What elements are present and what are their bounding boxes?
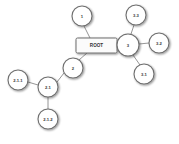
nodes-layer: 1233.13.23.32.12.1.12.1.2 <box>8 5 169 129</box>
edge-root-n2 <box>79 53 87 60</box>
root-label: ROOT <box>90 43 103 48</box>
root-node[interactable]: ROOT <box>76 38 117 53</box>
node-2-1-2[interactable]: 2.1.2 <box>38 109 58 129</box>
node-label: 2.1 <box>45 85 51 90</box>
mind-map-diagram: ROOT 1233.13.23.32.12.1.12.1.2 <box>0 0 179 144</box>
node-2[interactable]: 2 <box>63 58 83 78</box>
node-2-1-1[interactable]: 2.1.1 <box>8 70 28 90</box>
node-1[interactable]: 1 <box>72 6 92 26</box>
node-label: 3.3 <box>133 13 139 18</box>
node-3-1[interactable]: 3.1 <box>134 64 154 84</box>
node-label: 3.2 <box>156 41 162 46</box>
node-3-2[interactable]: 3.2 <box>149 33 169 53</box>
edge-root-n1 <box>84 26 90 38</box>
edge-n21-n211 <box>28 82 38 85</box>
edge-n2-n21 <box>57 73 64 82</box>
node-label: 2.1.2 <box>43 117 53 122</box>
edge-n3-n32 <box>139 43 149 44</box>
edge-n3-n31 <box>133 55 140 65</box>
node-label: 2.1.1 <box>13 78 23 83</box>
node-2-1[interactable]: 2.1 <box>38 77 58 97</box>
edge-n3-n33 <box>131 25 134 34</box>
node-label: 3.1 <box>141 72 147 77</box>
node-3[interactable]: 3 <box>117 34 139 56</box>
node-3-3[interactable]: 3.3 <box>126 5 146 25</box>
